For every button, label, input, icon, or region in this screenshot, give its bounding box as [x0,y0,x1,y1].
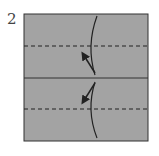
fold-diagram [0,0,159,156]
